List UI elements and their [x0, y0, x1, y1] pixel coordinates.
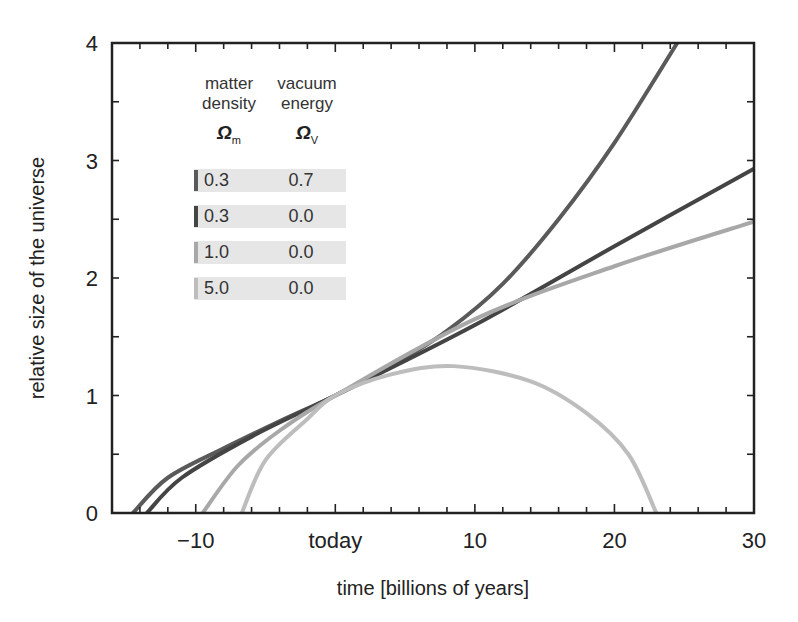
legend-matter-line1: matter	[190, 74, 268, 94]
y-tick-label: 4	[86, 31, 98, 56]
y-tick-label: 1	[86, 384, 98, 409]
legend-omega-m: 5.0	[204, 278, 266, 299]
legend-vacuum-line2: energy	[268, 94, 346, 114]
omega-m-symbol: Ωm	[190, 122, 268, 150]
x-axis-title: time [billions of years]	[337, 577, 529, 599]
legend-swatch	[194, 170, 198, 191]
y-tick-label: 3	[86, 149, 98, 174]
legend-omega-m: 0.3	[204, 206, 266, 227]
legend-omega-m: 0.3	[204, 170, 266, 191]
legend-header: matter density vacuum energy	[190, 74, 350, 114]
legend-omega-v: 0.0	[266, 242, 336, 263]
x-tick-label: 10	[463, 528, 487, 553]
x-tick-label: −10	[177, 528, 214, 553]
omega-v-symbol: ΩV	[268, 122, 346, 150]
legend-omega-v: 0.7	[266, 170, 336, 191]
legend-swatch	[194, 242, 198, 263]
legend: matter density vacuum energy Ωm ΩV 0.3 0…	[190, 74, 350, 150]
legend-omega-v: 0.0	[266, 278, 336, 299]
legend-matter-line2: density	[190, 94, 268, 114]
y-tick-label: 0	[86, 501, 98, 526]
legend-matter-header: matter density	[190, 74, 268, 114]
legend-vacuum-line1: vacuum	[268, 74, 346, 94]
chart-canvas: −10today10203001234 time [billions of ye…	[0, 0, 798, 622]
x-tick-label: 20	[602, 528, 626, 553]
legend-row: 5.0 0.0	[194, 277, 346, 300]
x-tick-label: today	[308, 528, 362, 553]
legend-row: 0.3 0.7	[194, 169, 346, 192]
y-axis-title: relative size of the universe	[26, 157, 48, 399]
legend-swatch	[194, 278, 198, 299]
legend-omega-v: 0.0	[266, 206, 336, 227]
legend-vacuum-header: vacuum energy	[268, 74, 346, 114]
x-tick-label: 30	[742, 528, 766, 553]
legend-symbols: Ωm ΩV	[190, 122, 350, 150]
legend-row: 1.0 0.0	[194, 241, 346, 264]
series-curve	[242, 366, 657, 513]
legend-omega-m: 1.0	[204, 242, 266, 263]
legend-row: 0.3 0.0	[194, 205, 346, 228]
y-tick-label: 2	[86, 266, 98, 291]
legend-swatch	[194, 206, 198, 227]
